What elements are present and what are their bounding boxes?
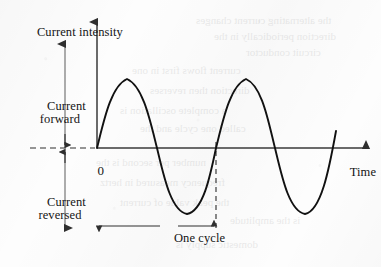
y-axis-title-line1: Current intensity — [37, 25, 123, 39]
y-axis-title: Current intensity — [24, 12, 94, 53]
current-reversed-label-text: Currentreversed — [38, 195, 85, 223]
x-axis-label-text: Time — [350, 165, 376, 179]
current-forward-label-text: Currentforward — [40, 99, 86, 127]
x-axis-label: Time — [337, 152, 376, 193]
origin-label: 0 — [84, 150, 104, 192]
current-forward-label: Currentforward — [24, 86, 96, 140]
ac-waveform-figure: the alternating current changesdirection… — [0, 0, 381, 267]
one-cycle-label: One cycle — [161, 218, 225, 259]
ac-sine-curve — [97, 79, 336, 214]
origin-label-text: 0 — [97, 163, 104, 178]
one-cycle-label-text: One cycle — [174, 231, 225, 245]
